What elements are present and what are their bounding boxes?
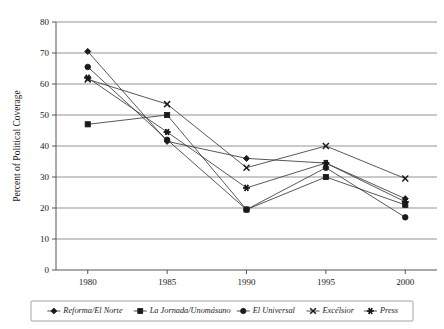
x-tick-label-2000: 2000 bbox=[396, 277, 415, 287]
y-tick-label-70: 70 bbox=[40, 48, 50, 58]
x-tick-label-1985: 1985 bbox=[158, 277, 177, 287]
legend-label: Press bbox=[379, 306, 398, 315]
data-point bbox=[85, 64, 91, 70]
y-tick-label-80: 80 bbox=[40, 17, 50, 27]
y-tick-label-40: 40 bbox=[40, 141, 50, 151]
x-tick-label-1990: 1990 bbox=[238, 277, 257, 287]
y-tick-label-0: 0 bbox=[45, 265, 50, 275]
y-tick-label-20: 20 bbox=[40, 203, 50, 213]
y-tick-label-30: 30 bbox=[40, 172, 50, 182]
x-tick-label-1995: 1995 bbox=[317, 277, 336, 287]
y-axis-title: Percent of Political Coverage bbox=[12, 90, 22, 202]
line-chart: 01020304050607080 19801985199019952000 P… bbox=[0, 0, 444, 329]
data-point bbox=[165, 112, 170, 117]
chart-background bbox=[0, 0, 444, 329]
x-tick-label-1980: 1980 bbox=[79, 277, 98, 287]
legend-label: El Universal bbox=[252, 306, 296, 315]
chart-legend: Reforma/El NorteLa Jornada/UnomásunoEl U… bbox=[31, 301, 413, 321]
y-tick-label-50: 50 bbox=[40, 110, 50, 120]
y-tick-label-10: 10 bbox=[40, 234, 50, 244]
legend-marker-square bbox=[138, 309, 143, 314]
legend-marker-circle bbox=[241, 308, 246, 313]
data-point bbox=[323, 174, 328, 179]
data-point bbox=[164, 137, 170, 143]
legend-label: Reforma/El Norte bbox=[62, 306, 123, 315]
legend-label: Excélsior bbox=[322, 306, 355, 315]
y-tick-label-60: 60 bbox=[40, 79, 50, 89]
data-point bbox=[85, 122, 90, 127]
legend-label: La Jornada/Unomásuno bbox=[149, 306, 231, 315]
data-point bbox=[244, 207, 250, 213]
data-point bbox=[402, 215, 408, 221]
chart-figure: 01020304050607080 19801985199019952000 P… bbox=[0, 0, 444, 329]
